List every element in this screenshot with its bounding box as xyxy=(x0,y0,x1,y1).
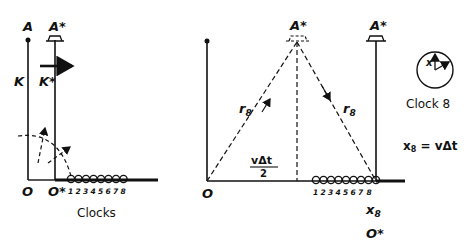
svg-text:7: 7 xyxy=(113,187,119,196)
relativity-clock-diagram: A A* K K* O O* 1 2 3 4 5 6 7 8 Clocks xyxy=(0,0,473,250)
svg-text:2: 2 xyxy=(321,188,326,197)
clock-8-caption: Clock 8 xyxy=(406,97,450,111)
left-panel: A A* K K* O O* 1 2 3 4 5 6 7 8 Clocks xyxy=(14,19,158,220)
svg-text:6: 6 xyxy=(351,188,356,197)
arrow-up-on-left-path xyxy=(262,99,270,112)
label-a-star: A* xyxy=(48,19,66,34)
label-a-star-mid: A* xyxy=(289,18,307,33)
label-r8-left: r8 xyxy=(239,101,252,118)
svg-text:8: 8 xyxy=(367,188,372,197)
dashed-arrow-diagonal xyxy=(48,147,70,163)
clock-hand-label: x xyxy=(425,57,433,68)
clock-numbers-left: 1 2 3 4 5 6 7 8 xyxy=(68,187,126,196)
equation-x8-equals-v-delta-t: x8 = vΔt xyxy=(403,139,458,154)
svg-text:3: 3 xyxy=(83,187,88,196)
svg-text:1: 1 xyxy=(313,188,318,197)
svg-text:4: 4 xyxy=(91,187,96,196)
dashed-arrow-up xyxy=(38,128,45,163)
label-o: O xyxy=(22,184,33,199)
svg-text:6: 6 xyxy=(106,187,111,196)
fraction-denominator: 2 xyxy=(260,168,267,179)
clocks-row-middle xyxy=(312,176,379,183)
label-a: A xyxy=(22,19,33,34)
clocks-caption: Clocks xyxy=(77,206,116,220)
label-o-middle: O xyxy=(202,186,213,201)
label-o-star: O* xyxy=(48,184,66,199)
dashed-light-arc xyxy=(18,135,72,180)
arrow-down-on-right-path xyxy=(322,86,330,100)
lamp-a-star-midpoint xyxy=(286,36,310,41)
label-x8: x8 xyxy=(365,202,381,219)
point-a-origin xyxy=(205,39,210,44)
svg-text:5: 5 xyxy=(98,187,103,196)
lamp-a-star-right xyxy=(366,36,386,41)
clock-numbers-middle: 1 2 3 4 5 6 7 8 xyxy=(313,188,372,197)
right-panel: x Clock 8 x8 = vΔt xyxy=(403,52,458,154)
label-k-star: K* xyxy=(39,74,56,89)
svg-text:5: 5 xyxy=(343,188,348,197)
svg-text:2: 2 xyxy=(76,187,81,196)
svg-text:8: 8 xyxy=(121,187,126,196)
point-a xyxy=(26,38,31,43)
label-k: K xyxy=(14,74,25,89)
label-a-star-right: A* xyxy=(369,18,387,33)
svg-text:4: 4 xyxy=(336,188,341,197)
svg-text:3: 3 xyxy=(328,188,333,197)
fraction-numerator: vΔt xyxy=(251,154,272,167)
label-o-star-middle: O* xyxy=(366,226,384,241)
clock-hand-diagonal xyxy=(435,62,449,70)
middle-panel: A* A* r8 r8 vΔt 2 O 1 2 3 4 5 6 7 8 x8 O… xyxy=(202,18,405,241)
label-r8-right: r8 xyxy=(343,101,356,118)
svg-text:7: 7 xyxy=(358,188,364,197)
svg-text:1: 1 xyxy=(68,187,73,196)
light-path-right xyxy=(297,42,376,181)
